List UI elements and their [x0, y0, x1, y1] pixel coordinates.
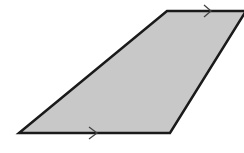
parallelogram-diagram: [0, 0, 244, 153]
quadrilateral-shape: [19, 11, 244, 133]
